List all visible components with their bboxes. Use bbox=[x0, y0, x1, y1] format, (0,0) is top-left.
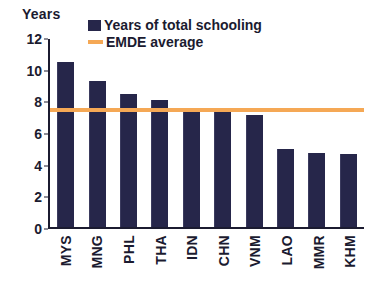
bar-series bbox=[50, 39, 364, 227]
y-axis-tick-label: 2 bbox=[34, 190, 42, 204]
x-axis-tick-label: MYS bbox=[59, 235, 73, 266]
y-axis-tick-mark bbox=[44, 102, 48, 103]
x-axis-tick-label: MNG bbox=[90, 235, 104, 269]
y-axis-tick-label: 6 bbox=[34, 127, 42, 141]
y-axis-tick-label: 8 bbox=[34, 95, 42, 109]
emde-average-line bbox=[50, 108, 364, 112]
x-label-slot: MYS bbox=[50, 233, 82, 289]
y-axis-tick-mark bbox=[44, 197, 48, 198]
schooling-years-bar-chart: Years Years of total schooling EMDE aver… bbox=[0, 0, 370, 289]
x-axis-category-labels: MYSMNGPHLTHAIDNCHNVNMLAOMMRKHM bbox=[50, 233, 366, 289]
x-axis-tick-label: KHM bbox=[343, 235, 357, 268]
x-axis-tick-label: CHN bbox=[217, 235, 231, 266]
x-label-slot: VNM bbox=[240, 233, 272, 289]
plot-area: 121086420 bbox=[48, 39, 364, 229]
bar-chn bbox=[214, 110, 231, 227]
x-axis-tick-label: VNM bbox=[248, 235, 262, 267]
x-label-slot: IDN bbox=[176, 233, 208, 289]
x-axis-tick-label: THA bbox=[154, 235, 168, 265]
bar-phl bbox=[120, 94, 137, 227]
bar-slot bbox=[301, 39, 332, 227]
bar-slot bbox=[81, 39, 112, 227]
bar-slot bbox=[144, 39, 175, 227]
y-axis-tick-mark bbox=[44, 70, 48, 71]
y-axis-unit-label: Years bbox=[22, 6, 60, 22]
x-label-slot: MMR bbox=[303, 233, 335, 289]
x-label-slot: THA bbox=[145, 233, 177, 289]
bar-khm bbox=[340, 154, 357, 227]
bar-slot bbox=[238, 39, 269, 227]
bar-vnm bbox=[246, 115, 263, 227]
y-axis-tick-mark bbox=[44, 229, 48, 230]
legend-item-label: Years of total schooling bbox=[104, 18, 262, 32]
y-axis-tick-mark bbox=[44, 165, 48, 166]
bar-mys bbox=[57, 62, 74, 227]
bar-mmr bbox=[308, 153, 325, 227]
legend-item-years-of-total-schooling: Years of total schooling bbox=[88, 18, 262, 32]
y-axis-tick-label: 4 bbox=[34, 159, 42, 173]
x-label-slot: KHM bbox=[334, 233, 366, 289]
x-label-slot: LAO bbox=[271, 233, 303, 289]
bar-slot bbox=[176, 39, 207, 227]
x-axis-tick-label: PHL bbox=[122, 235, 136, 264]
y-axis-tick-mark bbox=[44, 134, 48, 135]
bar-lao bbox=[277, 149, 294, 227]
x-axis-tick-label: MMR bbox=[312, 235, 326, 269]
bar-idn bbox=[183, 110, 200, 227]
y-axis-tick-label: 10 bbox=[26, 64, 42, 78]
x-label-slot: PHL bbox=[113, 233, 145, 289]
bar-mng bbox=[89, 81, 106, 227]
bar-slot bbox=[50, 39, 81, 227]
x-axis-line bbox=[48, 227, 364, 229]
x-label-slot: CHN bbox=[208, 233, 240, 289]
x-axis-tick-label: IDN bbox=[185, 235, 199, 260]
bar-tha bbox=[151, 100, 168, 227]
y-axis-tick-mark bbox=[44, 39, 48, 40]
bar-slot bbox=[113, 39, 144, 227]
bar-slot bbox=[270, 39, 301, 227]
bar-slot bbox=[207, 39, 238, 227]
y-axis-tick-label: 12 bbox=[26, 32, 42, 46]
legend-square-swatch-icon bbox=[88, 20, 101, 31]
x-label-slot: MNG bbox=[82, 233, 114, 289]
x-axis-tick-label: LAO bbox=[280, 235, 294, 265]
y-axis-tick-label: 0 bbox=[34, 222, 42, 236]
bar-slot bbox=[333, 39, 364, 227]
